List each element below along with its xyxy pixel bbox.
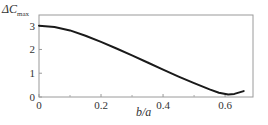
x-tick-label: 0.4 — [156, 99, 170, 111]
y-tick-label: 1 — [30, 67, 36, 79]
data-line — [39, 26, 244, 95]
x-tick-label: 0.6 — [218, 99, 232, 111]
plot-frame — [39, 15, 253, 97]
y-axis-title: ΔCmax — [2, 2, 29, 18]
x-axis-title: b/a — [136, 105, 151, 120]
x-tick-label: 0 — [36, 99, 42, 111]
y-tick-label: 3 — [30, 20, 36, 32]
y-tick-label: 0 — [30, 91, 36, 103]
y-axis-title-sub: max — [17, 10, 29, 18]
x-tick-label: 0.2 — [94, 99, 108, 111]
chart-container: 00.20.40.60123 ΔCmax b/a — [0, 0, 268, 125]
line-chart: 00.20.40.60123 — [0, 0, 268, 125]
y-axis-title-main: ΔC — [2, 2, 17, 16]
y-tick-label: 2 — [30, 43, 36, 55]
